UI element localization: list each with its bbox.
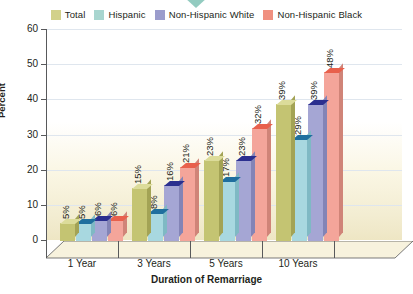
chart-legend: Total Hispanic Non-Hispanic White Non-Hi… [0,9,413,20]
bar-value-label: 32% [252,105,263,124]
bar-group-1-year: 5%5%6%6% [60,29,127,241]
bar-value-label: 23% [204,137,215,156]
x-axis-title: Duration of Remarriage [0,274,413,285]
bar-value-label: 21% [180,144,191,163]
bar-side-face [235,172,239,237]
x-tick-label-5-years: 5 Years [190,258,262,269]
y-tick-label-10: 10 [0,199,38,210]
bar-chart: Total Hispanic Non-Hispanic White Non-Hi… [0,0,413,294]
legend-item-total: Total [51,9,86,20]
x-tick-label-3-years: 3 Years [118,258,190,269]
legend-label-non-hispanic-white: Non-Hispanic White [169,9,255,20]
bar-value-label: 39% [276,81,287,100]
bar-value-label: 15% [132,165,143,184]
bar-front-face [204,160,219,241]
bar-front-face [60,223,75,241]
bars-container: 5%5%6%6%15%8%16%21%23%17%23%32%39%29%39%… [46,29,402,241]
bar-side-face [339,63,343,237]
y-tick-label-50: 50 [0,58,38,69]
bar-side-face [219,151,223,237]
bar-group-5-years: 23%17%23%32% [204,29,271,241]
bar-10-years-total: 39% [276,104,291,241]
legend-swatch-total [51,10,61,20]
bar-5-years-total: 23% [204,160,219,241]
x-axis-labels: 1 Year3 Years5 Years10 Years [46,258,413,272]
x-tick-label-1-year: 1 Year [46,258,118,269]
legend-item-hispanic: Hispanic [94,9,145,20]
bar-1-year-total: 5% [60,223,75,241]
legend-swatch-hispanic [94,10,104,20]
bar-3-years-total: 15% [132,188,147,241]
legend-swatch-non-hispanic-white [155,10,165,20]
bar-side-face [291,95,295,237]
bar-side-face [251,151,255,237]
bar-group-3-years: 15%8%16%21% [132,29,199,241]
x-tick-2 [190,241,191,258]
x-tick-0 [46,241,47,258]
legend-item-non-hispanic-white: Non-Hispanic White [155,9,255,20]
x-tick-3 [262,241,263,258]
y-tick-label-0: 0 [0,234,38,245]
bar-side-face [195,158,199,237]
bar-value-label: 23% [236,137,247,156]
bar-side-face [267,120,271,237]
legend-label-total: Total [65,9,86,20]
legend-label-hispanic: Hispanic [108,9,145,20]
legend-item-non-hispanic-black: Non-Hispanic Black [263,9,362,20]
y-tick-label-60: 60 [0,23,38,34]
bar-value-label: 39% [308,81,319,100]
bar-front-face [276,104,291,241]
bar-side-face [323,95,327,237]
legend-label-non-hispanic-black: Non-Hispanic Black [277,9,362,20]
decorative-triangle-shape [172,0,220,8]
bar-front-face [132,188,147,241]
bar-group-10-years: 39%29%39%48% [276,29,343,241]
x-tick-1 [118,241,119,258]
y-tick-label-30: 30 [0,129,38,140]
bar-value-label: 5% [60,206,71,220]
y-tick-label-20: 20 [0,164,38,175]
bar-value-label: 16% [164,162,175,181]
legend-swatch-non-hispanic-black [263,10,273,20]
x-tick-label-10-years: 10 Years [262,258,334,269]
bar-side-face [307,130,311,237]
bar-value-label: 48% [324,49,335,68]
y-axis-title: Percent [0,83,7,118]
x-tick-4 [334,241,335,258]
chart-floor-3d [46,241,413,259]
